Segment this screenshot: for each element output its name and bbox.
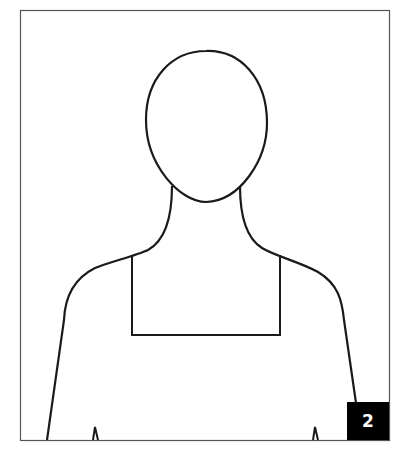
figure-number-badge: 2 — [347, 402, 389, 440]
head-outline — [146, 51, 267, 202]
neck-left — [47, 186, 172, 440]
figure-frame — [21, 11, 390, 441]
right-torso-marker — [313, 427, 318, 440]
left-torso-marker — [93, 427, 98, 440]
figure-canvas — [0, 0, 410, 459]
square-neckline — [132, 255, 280, 335]
neck-right — [240, 186, 356, 403]
